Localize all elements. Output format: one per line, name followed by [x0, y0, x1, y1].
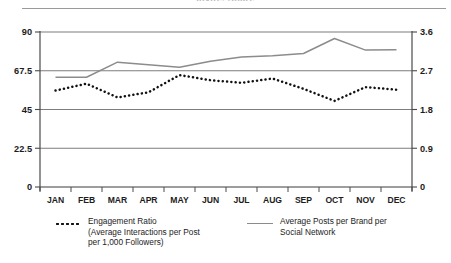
right-axis-tick-label: 3.6 — [420, 27, 433, 37]
legend-line-2: Social Network — [280, 227, 335, 237]
x-axis-tick-label: APR — [139, 195, 158, 205]
line-chart-canvas: 022.54567.59000.91.82.73.6JANFEBMARAPRMA… — [0, 0, 451, 210]
series-line-dotted — [56, 75, 397, 101]
x-axis-tick-label: SEP — [295, 195, 312, 205]
right-axis-tick-label: 0 — [420, 182, 425, 192]
chart-legend: Engagement Ratio (Average Interactions p… — [0, 214, 451, 263]
legend-line-1: Engagement Ratio — [88, 216, 157, 226]
left-axis-tick-label: 90 — [22, 27, 32, 37]
x-axis-tick-label: DEC — [387, 195, 405, 205]
left-axis-tick-label: 22.5 — [14, 144, 32, 154]
legend-label-average-posts: Average Posts per Brand per Social Netwo… — [280, 216, 445, 237]
x-axis-tick-label: JUN — [202, 195, 219, 205]
series-line-solid — [56, 38, 397, 77]
plot-area: 022.54567.59000.91.82.73.6JANFEBMARAPRMA… — [0, 0, 451, 210]
x-axis-tick-label: FEB — [78, 195, 95, 205]
right-axis-tick-label: 2.7 — [420, 66, 433, 76]
x-axis-tick-label: JUL — [233, 195, 249, 205]
x-axis-tick-label: JAN — [47, 195, 64, 205]
left-axis-tick-label: 45 — [22, 105, 32, 115]
x-axis-tick-label: MAY — [170, 195, 189, 205]
legend-line-2: (Average Interactions per Post — [88, 227, 200, 237]
x-axis-tick-label: OCT — [325, 195, 344, 205]
x-axis-tick-label: NOV — [356, 195, 375, 205]
left-axis-tick-label: 67.5 — [14, 66, 32, 76]
right-axis-tick-label: 1.8 — [420, 105, 433, 115]
x-axis-tick-label: MAR — [108, 195, 128, 205]
chart-figure: Invite, Share 022.54567.59000.91.82.73.6… — [0, 0, 451, 263]
right-axis-tick-label: 0.9 — [420, 144, 433, 154]
legend-label-engagement-ratio: Engagement Ratio (Average Interactions p… — [88, 216, 253, 248]
dotted-line-marker-icon — [55, 221, 81, 225]
legend-line-3: per 1,000 Followers) — [88, 237, 164, 247]
x-axis-tick-label: AUG — [263, 195, 282, 205]
left-axis-tick-label: 0 — [27, 182, 32, 192]
legend-line-1: Average Posts per Brand per — [280, 216, 387, 226]
solid-line-marker-icon — [247, 223, 273, 224]
